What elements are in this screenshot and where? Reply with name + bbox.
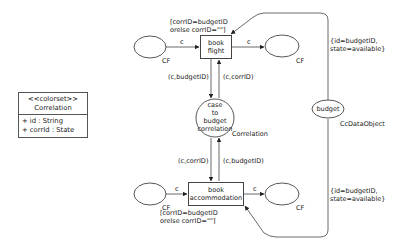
book-flight-line2: flight (208, 47, 225, 55)
place-cf-top-in[interactable] (134, 36, 166, 58)
arc-label-budget-bottom: {id=budgetID, state=available} (330, 187, 385, 203)
colorset-name: Correlation (19, 104, 87, 113)
arc-label-c-top-in: c (180, 38, 184, 46)
budget-type: CcDataObject (340, 120, 385, 128)
transition-book-accommodation[interactable]: book accommodation (188, 182, 244, 206)
colorset-attributes: + id : String + corrId : State (19, 115, 87, 137)
cf-bottom-in-label: CF (162, 204, 170, 212)
arc-label-case-to-accommodation: (c,corrID) (178, 157, 208, 165)
colorset-attr-id: + id : String (22, 117, 84, 126)
budget-label: budget (312, 105, 344, 113)
arc-label-c-bottom-out: c (253, 185, 257, 193)
place-cf-bottom-in[interactable] (134, 183, 166, 205)
colorset-stereotype: <<colorset>> (19, 95, 87, 104)
arc-label-case-to-flight: (c,corrID) (223, 73, 253, 81)
book-flight-line1: book (208, 39, 224, 47)
case-to-budget-label: case to budget correlation (195, 101, 235, 133)
colorset-header: <<colorset>> Correlation (19, 93, 87, 115)
book-accommodation-line2: accommodation (190, 194, 242, 202)
colorset-box: <<colorset>> Correlation + id : String +… (18, 92, 88, 138)
cf-top-in-label: CF (162, 57, 170, 65)
transition-book-flight[interactable]: book flight (200, 35, 232, 59)
place-cf-top-out[interactable] (265, 35, 299, 57)
place-cf-bottom-out[interactable] (265, 183, 299, 205)
cf-bottom-out-label: CF (296, 204, 304, 212)
arc-label-c-top-out: c (247, 38, 251, 46)
guard-book-flight: [corrID=budgetID orelse corrID=""] (170, 18, 228, 34)
arc-label-c-bottom-in: c (175, 185, 179, 193)
case-to-budget-type: Correlation (232, 130, 268, 138)
arc-label-accommodation-to-case: (c,budgetID) (223, 157, 264, 165)
colorset-attr-corrid: + corrId : State (22, 126, 84, 135)
arc-label-flight-to-case: (c,budgetID) (168, 73, 209, 81)
cf-top-out-label: CF (296, 57, 304, 65)
book-accommodation-line1: book (208, 186, 224, 194)
arc-label-budget-top: {id=budgetID, state=available} (330, 37, 385, 53)
